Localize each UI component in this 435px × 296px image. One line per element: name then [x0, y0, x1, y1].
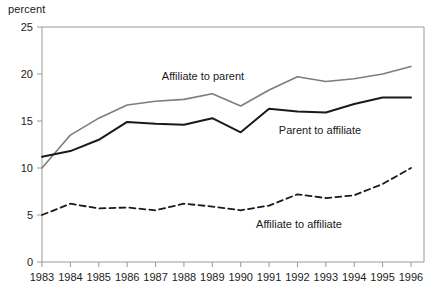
x-axis-ticks — [42, 262, 411, 267]
x-tick-label-1992: 1992 — [285, 271, 309, 283]
x-tick-label-1984: 1984 — [58, 271, 82, 283]
y-tick-label-25: 25 — [21, 21, 33, 33]
x-tick-label-1994: 1994 — [342, 271, 366, 283]
x-tick-label-1996: 1996 — [399, 271, 423, 283]
plot-frame — [42, 27, 424, 262]
y-tick-label-20: 20 — [21, 68, 33, 80]
x-tick-label-1995: 1995 — [370, 271, 394, 283]
series-line-affiliate-to-affiliate — [42, 168, 411, 215]
x-tick-label-1991: 1991 — [257, 271, 281, 283]
x-tick-label-1985: 1985 — [87, 271, 111, 283]
x-tick-label-1983: 1983 — [30, 271, 54, 283]
x-tick-label-1990: 1990 — [228, 271, 252, 283]
y-tick-label-15: 15 — [21, 115, 33, 127]
x-tick-label-1993: 1993 — [314, 271, 338, 283]
series-label-affiliate-to-affiliate: Affiliate to affiliate — [256, 218, 342, 230]
y-tick-label-5: 5 — [27, 209, 33, 221]
y-axis-ticks — [37, 27, 42, 262]
line-chart-plot: 0510152025 19831984198519861987198819891… — [0, 0, 435, 296]
x-axis-tick-labels: 1983198419851986198719881989199019911992… — [30, 271, 423, 283]
y-axis-tick-labels: 0510152025 — [21, 21, 33, 268]
series-label-affiliate-to-parent: Affiliate to parent — [162, 70, 244, 82]
data-series-group — [42, 66, 411, 215]
y-tick-label-0: 0 — [27, 256, 33, 268]
x-tick-label-1987: 1987 — [143, 271, 167, 283]
y-tick-label-10: 10 — [21, 162, 33, 174]
series-label-parent-to-affiliate: Parent to affiliate — [279, 124, 361, 136]
chart-container: percent 0510152025 198319841985198619871… — [0, 0, 435, 296]
x-tick-label-1989: 1989 — [200, 271, 224, 283]
x-tick-label-1986: 1986 — [115, 271, 139, 283]
x-tick-label-1988: 1988 — [172, 271, 196, 283]
